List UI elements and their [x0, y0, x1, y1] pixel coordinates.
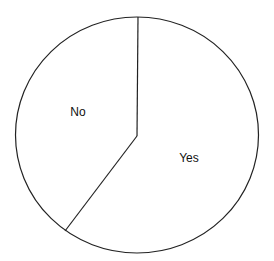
slice-label-no: No — [70, 105, 85, 119]
slice-label-yes: Yes — [179, 151, 199, 165]
pie-chart — [0, 0, 274, 261]
